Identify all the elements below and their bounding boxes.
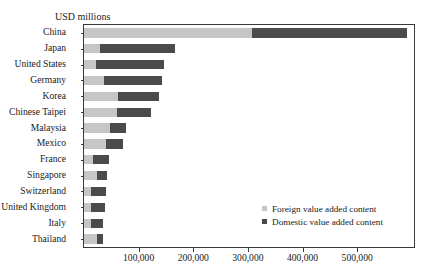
- legend-item-domestic: Domestic value added content: [262, 215, 383, 228]
- legend-label: Domestic value added content: [272, 217, 383, 227]
- category-label: United Kingdom: [1, 201, 66, 212]
- bar-segment-domestic: [100, 44, 175, 53]
- bar-segment-domestic: [252, 28, 407, 37]
- bar-row: United States: [84, 57, 414, 73]
- bar-row: China: [84, 25, 414, 41]
- bar-segment-domestic: [91, 187, 106, 196]
- stacked-bar: [84, 139, 123, 148]
- axis-unit-label: USD millions: [55, 11, 110, 22]
- stacked-bar: [84, 219, 103, 228]
- stacked-bar: [84, 108, 151, 117]
- stacked-bar: [84, 76, 162, 85]
- x-axis-tick-label: 300,000: [232, 252, 263, 263]
- bar-segment-foreign: [84, 139, 106, 148]
- bar-segment-domestic: [93, 155, 109, 164]
- legend-item-foreign: Foreign value added content: [262, 202, 383, 215]
- bar-segment-foreign: [84, 123, 110, 132]
- category-label: Chinese Taipei: [9, 106, 66, 117]
- stacked-bar: [84, 171, 107, 180]
- stacked-bar: [84, 60, 164, 69]
- bar-segment-foreign: [84, 187, 91, 196]
- bar-segment-foreign: [84, 155, 93, 164]
- bar-segment-foreign: [84, 28, 252, 37]
- category-label: China: [43, 26, 66, 37]
- bar-segment-foreign: [84, 203, 91, 212]
- category-label: Malaysia: [31, 122, 66, 133]
- bar-segment-foreign: [84, 76, 104, 85]
- bar-segment-domestic: [91, 219, 103, 228]
- bar-segment-domestic: [117, 108, 151, 117]
- stacked-bar: [84, 123, 126, 132]
- category-label: United States: [15, 58, 66, 69]
- category-label: Japan: [44, 42, 66, 53]
- bar-segment-domestic: [110, 123, 126, 132]
- stacked-bar: [84, 203, 105, 212]
- x-axis-tick-label: 400,000: [287, 252, 318, 263]
- category-label: Italy: [48, 217, 66, 228]
- stacked-bar: [84, 234, 103, 243]
- category-label: Singapore: [27, 169, 66, 180]
- category-label: Switzerland: [20, 185, 66, 196]
- category-label: Thailand: [32, 233, 66, 244]
- category-label: France: [40, 153, 66, 164]
- legend-swatch-foreign-icon: [262, 206, 267, 211]
- bar-row: France: [84, 152, 414, 168]
- bar-segment-domestic: [97, 171, 107, 180]
- bar-segment-foreign: [84, 92, 118, 101]
- page-top-cutoff-text: [0, 0, 427, 6]
- bar-segment-foreign: [84, 60, 96, 69]
- stacked-bar: [84, 44, 175, 53]
- bar-segment-domestic: [96, 60, 164, 69]
- bar-row: Japan: [84, 41, 414, 57]
- bar-segment-foreign: [84, 44, 100, 53]
- x-axis-tick-label: 100,000: [123, 252, 154, 263]
- stacked-bar: [84, 187, 106, 196]
- bar-segment-domestic: [104, 76, 162, 85]
- category-label: Korea: [43, 90, 66, 101]
- stacked-bar: [84, 28, 407, 37]
- bar-row: Thailand: [84, 231, 414, 247]
- legend-label: Foreign value added content: [272, 204, 376, 214]
- bar-segment-domestic: [97, 234, 103, 243]
- bar-row: Chinese Taipei: [84, 104, 414, 120]
- bar-segment-foreign: [84, 108, 117, 117]
- x-axis-tick-label: 200,000: [178, 252, 209, 263]
- legend-swatch-domestic-icon: [262, 219, 267, 224]
- stacked-bar: [84, 155, 109, 164]
- x-axis-tick-label: 500,000: [342, 252, 373, 263]
- bar-row: Mexico: [84, 136, 414, 152]
- bar-row: Malaysia: [84, 120, 414, 136]
- bar-segment-domestic: [91, 203, 105, 212]
- chart-legend: Foreign value added contentDomestic valu…: [262, 202, 383, 228]
- bar-segment-domestic: [118, 92, 160, 101]
- category-label: Mexico: [37, 137, 66, 148]
- stacked-bar: [84, 92, 159, 101]
- category-label: Germany: [30, 74, 66, 85]
- bar-row: Switzerland: [84, 184, 414, 200]
- bar-row: Germany: [84, 73, 414, 89]
- bar-segment-foreign: [84, 234, 97, 243]
- bar-row: Singapore: [84, 168, 414, 184]
- bar-segment-foreign: [84, 171, 97, 180]
- bar-segment-domestic: [106, 139, 123, 148]
- bar-row: Korea: [84, 88, 414, 104]
